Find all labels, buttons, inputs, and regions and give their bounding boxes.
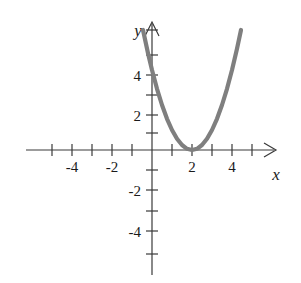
parabola-curve-group (143, 30, 241, 150)
y-tick-label-2: 2 (134, 108, 142, 124)
y-axis-group: 4 2 -2 -4 y (129, 21, 160, 275)
x-axis-group: -4 -2 2 4 x (26, 143, 280, 184)
parabola-plot-svg: -4 -2 2 4 x 4 2 -2 (0, 0, 301, 283)
parabola-curve (143, 30, 241, 150)
x-tick-label-2: 2 (188, 159, 196, 175)
y-tick-label--4: -4 (129, 224, 142, 240)
y-axis-label: y (132, 21, 142, 40)
x-tick-label-4: 4 (228, 159, 236, 175)
y-tick-label-4: 4 (134, 68, 142, 84)
x-tick-label--4: -4 (66, 159, 79, 175)
graph-figure: -4 -2 2 4 x 4 2 -2 (0, 0, 301, 283)
y-tick-label--2: -2 (129, 183, 142, 199)
x-tick-label--2: -2 (106, 159, 119, 175)
x-axis-label: x (271, 165, 280, 184)
